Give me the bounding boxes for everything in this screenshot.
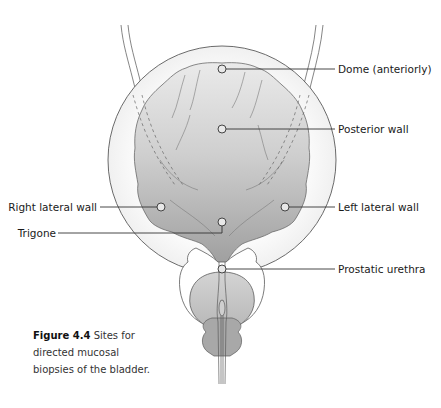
marker-left-lateral-wall [281,203,289,211]
marker-prostatic-urethra [218,265,226,273]
external-sphincter [202,318,241,356]
marker-right-lateral-wall [157,203,165,211]
label-prostatic-urethra: Prostatic urethra [338,263,426,275]
figure-caption: Figure 4.4 Sites for directed mucosal bi… [33,327,173,378]
figure-number: Figure 4.4 [33,330,90,341]
label-posterior-wall: Posterior wall [338,123,409,135]
caption-line-1: Sites for [94,330,135,341]
caption-line-2: directed mucosal [33,347,119,358]
marker-dome [218,65,226,73]
caption-line-3: biopsies of the bladder. [33,364,150,375]
marker-trigone [218,218,226,226]
label-trigone: Trigone [18,227,56,239]
label-left-lateral-wall: Left lateral wall [338,201,419,213]
marker-posterior-wall [218,125,226,133]
label-right-lateral-wall: Right lateral wall [8,201,97,213]
label-dome: Dome (anteriorly) [338,63,432,75]
